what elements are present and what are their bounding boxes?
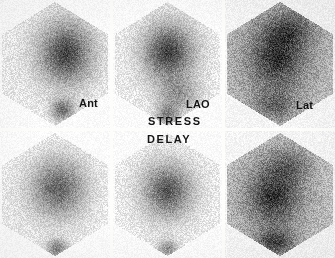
gutter-horizontal-1	[0, 128, 335, 131]
scan-image-delay-ant	[0, 131, 110, 258]
scintigraphy-figure: Ant LAO Lat STRESS DELAY	[0, 0, 335, 258]
scan-image-delay-lat	[225, 131, 335, 258]
scan-panel-stress-lat	[225, 0, 335, 128]
view-label-lateral: Lat	[296, 100, 313, 111]
scan-image-stress-lat	[225, 0, 335, 128]
phase-label-delay: DELAY	[147, 134, 191, 145]
view-label-anterior: Ant	[79, 98, 98, 109]
scan-image-delay-lao	[113, 131, 222, 258]
scan-panel-delay-ant	[0, 131, 110, 258]
phase-label-stress: STRESS	[148, 116, 202, 127]
scan-panel-delay-lao	[113, 131, 222, 258]
scan-panel-delay-lat	[225, 131, 335, 258]
view-label-lao: LAO	[186, 99, 210, 110]
